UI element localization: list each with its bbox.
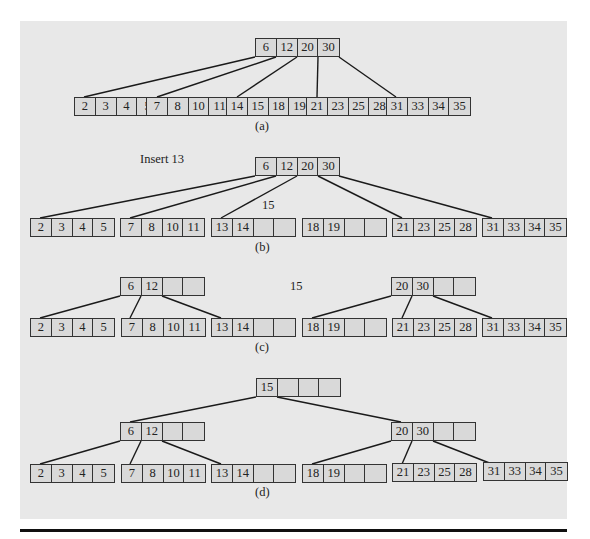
key-cell: 2 xyxy=(75,98,96,115)
key-cell: 23 xyxy=(414,219,435,236)
key-cell: 14 xyxy=(233,319,254,336)
key-cell: 21 xyxy=(393,464,414,481)
key-cell: 18 xyxy=(303,219,324,236)
key-cell xyxy=(454,278,475,295)
key-cell xyxy=(163,423,184,440)
key-cell xyxy=(434,423,455,440)
leaf-node-c-5: 21 23 25 28 xyxy=(392,318,477,337)
leaf-node-a-3: 14 15 18 19 xyxy=(226,97,311,116)
key-cell: 8 xyxy=(143,319,164,336)
key-cell: 13 xyxy=(212,219,233,236)
key-cell: 15 xyxy=(257,379,278,396)
key-cell: 31 xyxy=(483,219,504,236)
key-cell: 34 xyxy=(526,463,547,480)
key-cell: 10 xyxy=(164,319,185,336)
leaf-node-a-2: 7 8 10 11 xyxy=(146,97,231,116)
key-cell: 25 xyxy=(435,219,456,236)
key-cell: 7 xyxy=(122,465,143,482)
key-cell: 33 xyxy=(505,463,526,480)
caption-c: (c) xyxy=(255,340,269,355)
key-cell: 28 xyxy=(455,319,476,336)
leaf-node-d-2: 7 8 10 11 xyxy=(121,464,206,483)
leaf-node-d-5: 21 23 25 28 xyxy=(392,463,477,482)
key-cell xyxy=(345,219,366,236)
key-cell: 21 xyxy=(307,98,328,115)
tree-edges xyxy=(0,0,590,539)
key-cell: 28 xyxy=(455,219,476,236)
key-cell: 31 xyxy=(483,319,504,336)
key-cell: 19 xyxy=(324,319,345,336)
key-cell: 7 xyxy=(122,319,143,336)
caption-d: (d) xyxy=(255,485,270,500)
key-cell: 3 xyxy=(52,465,73,482)
key-cell xyxy=(454,423,475,440)
key-cell: 12 xyxy=(142,423,163,440)
leaf-node-c-3: 13 14 xyxy=(211,318,296,337)
internal-node-c-right: 20 30 xyxy=(391,277,476,296)
key-cell: 7 xyxy=(121,219,142,236)
key-cell: 5 xyxy=(93,319,114,336)
key-cell: 35 xyxy=(546,463,567,480)
internal-node-d-right: 20 30 xyxy=(391,422,476,441)
key-cell: 2 xyxy=(31,465,52,482)
leaf-node-c-4: 18 19 xyxy=(302,318,387,337)
key-cell: 23 xyxy=(414,464,435,481)
key-cell: 30 xyxy=(413,278,434,295)
key-cell: 12 xyxy=(142,278,163,295)
internal-node-d-left: 6 12 xyxy=(120,422,205,441)
promoted-key-label: 15 xyxy=(262,198,275,213)
key-cell xyxy=(299,379,320,396)
key-cell xyxy=(183,278,204,295)
root-node-b: 6 12 20 30 xyxy=(255,157,340,176)
key-cell: 19 xyxy=(324,219,345,236)
key-cell: 20 xyxy=(392,278,413,295)
key-cell: 12 xyxy=(277,158,298,175)
key-cell xyxy=(278,379,299,396)
key-cell: 33 xyxy=(408,98,429,115)
internal-node-c-left: 6 12 xyxy=(120,277,205,296)
key-cell: 33 xyxy=(504,219,525,236)
key-cell: 15 xyxy=(248,98,269,115)
root-node-d: 15 xyxy=(256,378,341,397)
key-cell: 23 xyxy=(414,319,435,336)
leaf-node-b-1: 2 3 4 5 xyxy=(30,218,115,237)
leaf-node-a-4: 21 23 25 28 xyxy=(306,97,391,116)
key-cell: 35 xyxy=(545,319,566,336)
key-cell xyxy=(365,319,386,336)
horizontal-rule xyxy=(20,529,567,532)
key-cell: 35 xyxy=(545,219,566,236)
key-cell: 20 xyxy=(392,423,413,440)
key-cell: 10 xyxy=(163,219,184,236)
key-cell: 28 xyxy=(455,464,476,481)
root-node-a: 6 12 20 30 xyxy=(255,38,340,57)
key-cell: 21 xyxy=(393,219,414,236)
key-cell xyxy=(345,465,366,482)
caption-b: (b) xyxy=(255,240,270,255)
leaf-node-b-2: 7 8 10 11 xyxy=(120,218,205,237)
key-cell: 2 xyxy=(31,219,52,236)
leaf-node-d-3: 13 14 xyxy=(211,464,296,483)
key-cell: 8 xyxy=(168,98,189,115)
leaf-node-c-1: 2 3 4 5 xyxy=(30,318,115,337)
leaf-node-d-6: 31 33 34 35 xyxy=(483,462,568,481)
key-cell: 10 xyxy=(189,98,210,115)
key-cell: 31 xyxy=(484,463,505,480)
leaf-node-c-2: 7 8 10 11 xyxy=(121,318,206,337)
leaf-node-c-6: 31 33 34 35 xyxy=(482,318,567,337)
key-cell: 14 xyxy=(233,465,254,482)
key-cell: 25 xyxy=(435,464,456,481)
key-cell: 4 xyxy=(73,319,94,336)
key-cell: 7 xyxy=(147,98,168,115)
key-cell xyxy=(274,319,295,336)
key-cell: 6 xyxy=(121,278,142,295)
key-cell: 31 xyxy=(387,98,408,115)
key-cell xyxy=(274,465,295,482)
key-cell: 14 xyxy=(227,98,248,115)
key-cell: 20 xyxy=(298,39,319,56)
key-cell: 34 xyxy=(525,219,546,236)
key-cell: 5 xyxy=(93,465,114,482)
leaf-node-a-5: 31 33 34 35 xyxy=(386,97,471,116)
key-cell: 8 xyxy=(142,219,163,236)
key-cell: 18 xyxy=(269,98,290,115)
key-cell xyxy=(254,219,275,236)
